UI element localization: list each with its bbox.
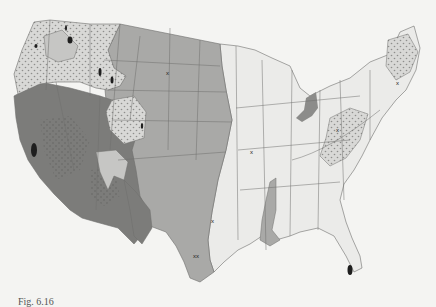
marker-x: x — [336, 127, 339, 133]
marker-x: x — [211, 218, 214, 224]
marker-x: x — [250, 149, 253, 155]
marker-xx: xx — [193, 253, 199, 259]
marker-x: x — [166, 70, 169, 76]
figure-caption: Fig. 6.16 — [18, 296, 54, 307]
marker-x: x — [396, 80, 399, 86]
